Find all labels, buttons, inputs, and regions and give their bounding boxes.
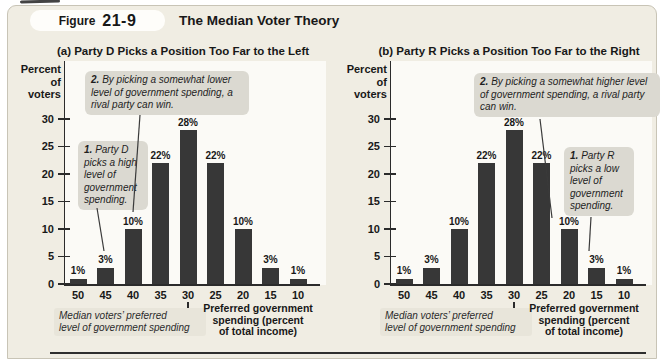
x-category-label: 40 (444, 289, 474, 301)
y-tick-mark (384, 283, 396, 285)
chart-b-median-note: Median voters’ preferred level of govern… (380, 308, 532, 336)
bar-value-label: 3% (88, 254, 124, 265)
y-tick-label: 30 (354, 113, 380, 125)
bar-15 (262, 268, 279, 285)
bar-45 (423, 268, 440, 285)
bar-50 (70, 279, 87, 285)
y-tick-mark (384, 201, 396, 203)
chart-a-annotation-1: 1. Party D picks a high level of governm… (78, 141, 148, 210)
chart-b-annotation-1: 1. Party R picks a low level of governme… (564, 147, 634, 216)
bar-value-label: 22% (524, 150, 560, 161)
y-tick-mark (384, 228, 396, 230)
chart-b-y-axis-label: Percent of voters (342, 63, 387, 101)
y-tick-label: 10 (354, 223, 380, 235)
y-axis-label-line: voters (16, 88, 61, 101)
x-axis-label-line: Preferred government (518, 303, 650, 315)
x-category-label: 10 (283, 289, 313, 301)
y-tick-mark (384, 118, 396, 120)
figure-label: Figure (59, 14, 96, 28)
y-tick-mark (384, 173, 396, 175)
bar-value-label: 1% (60, 265, 96, 276)
y-tick-mark (58, 228, 70, 230)
x-category-label: 20 (554, 289, 584, 301)
bar-35 (478, 163, 495, 284)
scan-artifact-mark (20, 0, 60, 3)
y-tick-label: 25 (354, 140, 380, 152)
y-tick-label: 10 (28, 223, 54, 235)
y-axis-label-line: voters (342, 88, 387, 101)
y-tick-mark (384, 146, 396, 148)
annotation-text: By picking a somewhat lower level of gov… (91, 74, 233, 110)
bar-value-label: 28% (496, 117, 532, 128)
y-tick-label: 15 (354, 195, 380, 207)
bar-value-label: 10% (225, 216, 261, 227)
bar-25 (207, 163, 224, 284)
y-tick-label: 25 (28, 140, 54, 152)
chart-a-median-note: Median voters’ preferred level of govern… (54, 308, 206, 336)
x-category-label: 10 (609, 289, 639, 301)
chart-a-annotation-2: 2. By picking a somewhat lower level of … (85, 71, 249, 115)
y-tick-mark (58, 146, 70, 148)
x-category-label: 20 (228, 289, 258, 301)
bar-40 (451, 229, 468, 284)
bar-value-label: 1% (386, 265, 422, 276)
chart-b-title: (b) Party R Picks a Position Too Far to … (356, 45, 662, 57)
annotation-text: Party D picks a high level of government… (84, 144, 137, 205)
y-tick-label: 5 (354, 250, 380, 262)
annotation-text: By picking a somewhat higher level of go… (480, 76, 647, 112)
y-tick-mark (384, 256, 396, 258)
chart-a-title: (a) Party D Picks a Position Too Far to … (30, 45, 336, 57)
median-note-line: Median voters’ preferred (385, 310, 527, 322)
y-tick-label: 0 (28, 278, 54, 290)
figure-panel: Figure 21-9 The Median Voter Theory (a) … (7, 5, 657, 359)
bar-10 (290, 279, 307, 285)
y-tick-mark (58, 201, 70, 203)
bar-30 (180, 130, 197, 284)
bar-value-label: 28% (170, 117, 206, 128)
bar-value-label: 10% (551, 216, 587, 227)
y-tick-label: 0 (354, 278, 380, 290)
chart-b-x-axis-label: Preferred government spending (percent o… (518, 303, 650, 338)
bar-20 (235, 229, 252, 284)
x-axis-label-line: of total income) (518, 326, 650, 338)
bar-15 (588, 268, 605, 285)
y-tick-mark (58, 173, 70, 175)
y-tick-label: 30 (28, 113, 54, 125)
bar-30 (506, 130, 523, 284)
y-tick-mark (58, 283, 70, 285)
figure-number-pill: Figure 21-9 (30, 10, 165, 31)
bar-value-label: 3% (253, 254, 289, 265)
bar-10 (616, 279, 633, 285)
chart-panel-a: (a) Party D Picks a Position Too Far to … (16, 41, 336, 353)
x-category-label: 35 (472, 289, 502, 301)
bar-value-label: 10% (441, 216, 477, 227)
figure-bottom-rule (50, 352, 646, 354)
y-tick-mark (58, 118, 70, 120)
bar-value-label: 3% (579, 254, 615, 265)
x-category-label: 40 (118, 289, 148, 301)
y-axis-label-line: Percent (16, 63, 61, 76)
bar-20 (561, 229, 578, 284)
x-axis-label-line: Preferred government (192, 303, 324, 315)
x-category-label: 50 (63, 289, 93, 301)
bar-50 (396, 279, 413, 285)
bar-35 (152, 163, 169, 284)
annotation-number: 2. (91, 74, 99, 85)
x-category-label: 35 (146, 289, 176, 301)
x-category-label: 30 (173, 289, 203, 301)
y-tick-label: 20 (354, 168, 380, 180)
annotation-number: 1. (84, 144, 92, 155)
bar-45 (97, 268, 114, 285)
figure-number: 21-9 (102, 12, 136, 30)
x-category-label: 45 (417, 289, 447, 301)
median-note-line: Median voters’ preferred (59, 310, 201, 322)
bar-value-label: 1% (280, 265, 316, 276)
x-category-label: 25 (527, 289, 557, 301)
x-category-label: 15 (582, 289, 612, 301)
chart-b-x-axis (390, 284, 646, 286)
x-category-label: 15 (256, 289, 286, 301)
bar-value-label: 10% (115, 216, 151, 227)
x-category-label: 50 (389, 289, 419, 301)
y-tick-label: 20 (28, 168, 54, 180)
median-note-line: level of government spending (385, 322, 527, 334)
